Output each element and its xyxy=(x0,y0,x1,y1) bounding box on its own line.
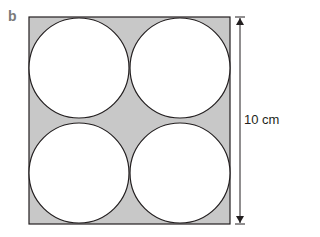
circle-top-right xyxy=(130,18,230,118)
circle-bottom-left xyxy=(29,123,129,223)
circle-top-left xyxy=(29,18,129,118)
circle-bottom-right xyxy=(130,123,230,223)
arrowhead-down-icon xyxy=(236,216,244,223)
arrowhead-up-icon xyxy=(236,18,244,25)
dimension-label: 10 cm xyxy=(244,112,279,127)
